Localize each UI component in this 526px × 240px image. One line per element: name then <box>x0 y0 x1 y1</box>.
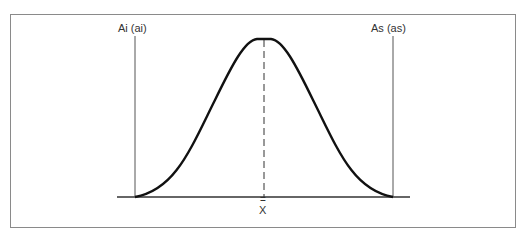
mean-label: X <box>259 204 266 216</box>
upper-limit-label: As (as) <box>371 22 406 34</box>
mean-bar-symbol: = <box>260 196 266 204</box>
lower-limit-label: Ai (ai) <box>118 22 147 34</box>
